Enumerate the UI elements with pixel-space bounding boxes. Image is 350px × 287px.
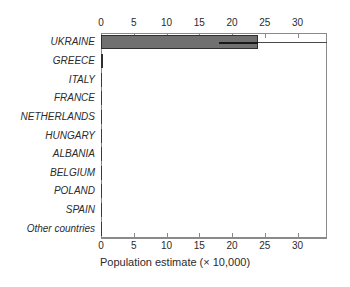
category-label-poland: POLAND	[0, 185, 95, 196]
x-tick-top-30	[298, 33, 299, 38]
x-tick-label-top-15: 15	[184, 17, 214, 29]
x-tick-bottom-30	[298, 233, 299, 238]
top-axis-line	[101, 33, 327, 34]
x-tick-label-bottom-25: 25	[250, 240, 280, 252]
median-ukraine	[219, 42, 258, 44]
x-tick-label-bottom-20: 20	[217, 240, 247, 252]
zero-mark-italy	[101, 73, 102, 87]
zero-mark-france	[101, 91, 102, 105]
zero-mark-spain	[101, 203, 102, 217]
whisker-ukraine	[258, 42, 327, 43]
category-label-other-countries: Other countries	[0, 223, 95, 234]
x-tick-label-top-30: 30	[283, 17, 313, 29]
zero-mark-belgium	[101, 166, 102, 180]
x-tick-label-top-25: 25	[250, 17, 280, 29]
x-tick-bottom-25	[265, 233, 266, 238]
x-tick-label-bottom-10: 10	[152, 240, 182, 252]
zero-mark-hungary	[101, 129, 102, 143]
category-label-hungary: HUNGARY	[0, 130, 95, 141]
zero-mark-albania	[101, 147, 102, 161]
category-label-spain: SPAIN	[0, 204, 95, 215]
box-greece	[101, 54, 103, 68]
x-tick-bottom-15	[199, 233, 200, 238]
category-label-belgium: BELGIUM	[0, 167, 95, 178]
category-label-france: FRANCE	[0, 92, 95, 103]
x-tick-label-bottom-5: 5	[119, 240, 149, 252]
x-tick-label-top-20: 20	[217, 17, 247, 29]
boxplot-chart: 005510101515202025253030 UKRAINEGREECEIT…	[0, 0, 350, 287]
zero-mark-netherlands	[101, 110, 102, 124]
x-tick-top-25	[265, 33, 266, 38]
x-tick-label-bottom-15: 15	[184, 240, 214, 252]
x-axis-title: Population estimate (× 10,000)	[0, 256, 350, 268]
category-label-albania: ALBANIA	[0, 148, 95, 159]
x-tick-label-bottom-0: 0	[86, 240, 116, 252]
x-tick-bottom-20	[232, 233, 233, 238]
category-label-greece: GREECE	[0, 55, 95, 66]
zero-mark-poland	[101, 184, 102, 198]
x-tick-label-top-0: 0	[86, 17, 116, 29]
x-tick-label-bottom-30: 30	[283, 240, 313, 252]
category-label-italy: ITALY	[0, 74, 95, 85]
x-tick-bottom-5	[134, 233, 135, 238]
zero-mark-other-countries	[101, 222, 102, 236]
x-tick-bottom-10	[167, 233, 168, 238]
plot-area	[101, 33, 327, 238]
category-label-netherlands: NETHERLANDS	[0, 111, 95, 122]
x-tick-label-top-10: 10	[152, 17, 182, 29]
x-tick-label-top-5: 5	[119, 17, 149, 29]
bottom-axis-line	[101, 238, 327, 239]
category-label-ukraine: UKRAINE	[0, 36, 95, 47]
